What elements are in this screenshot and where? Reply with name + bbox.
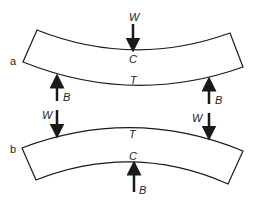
beam-bending-diagram: a W C T B B b W W T C B: [0, 0, 255, 200]
panel-label-a: a: [10, 55, 17, 67]
compression-label-c: C: [129, 53, 137, 65]
support-label-b-right: B: [215, 94, 222, 106]
panel-label-b: b: [10, 143, 16, 155]
load-label-w: W: [129, 11, 141, 23]
support-label-b-left: B: [63, 91, 70, 103]
load-label-w-right: W: [192, 112, 204, 124]
panel-b: b W W T C B: [10, 109, 243, 196]
tension-label-t: T: [130, 74, 138, 86]
tension-label-t: T: [129, 128, 137, 140]
diagram-canvas: a W C T B B b W W T C B: [0, 0, 255, 200]
panel-a: a W C T B B: [10, 11, 243, 106]
compression-label-c: C: [129, 150, 137, 162]
support-label-b-center: B: [139, 184, 146, 196]
load-label-w-left: W: [42, 109, 54, 121]
